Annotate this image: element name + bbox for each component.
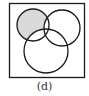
venn-diagram [0, 0, 89, 80]
figure-caption: (d) [0, 80, 89, 93]
circle-b [44, 10, 80, 46]
